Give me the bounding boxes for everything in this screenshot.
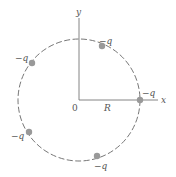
charge-dot	[94, 153, 100, 159]
origin-label: 0	[72, 103, 78, 113]
charge-dot	[29, 60, 35, 66]
charge-2: −q	[15, 53, 35, 66]
charge-label: −q	[142, 88, 156, 98]
charge-label: −q	[11, 131, 25, 141]
charge-label: −q	[15, 53, 29, 63]
y-axis-label: y	[75, 7, 82, 17]
charge-3: −q	[11, 129, 32, 141]
radius-label: R	[103, 103, 111, 113]
charge-label: −q	[99, 36, 113, 46]
charge-4: −q	[94, 153, 108, 171]
charge-1: −q	[99, 36, 113, 49]
charges-on-circle-diagram: y x 0 R −q −q −q −q −q	[0, 0, 176, 177]
charge-label: −q	[94, 161, 108, 171]
charge-dot	[26, 129, 32, 135]
x-axis-label: x	[161, 95, 166, 105]
